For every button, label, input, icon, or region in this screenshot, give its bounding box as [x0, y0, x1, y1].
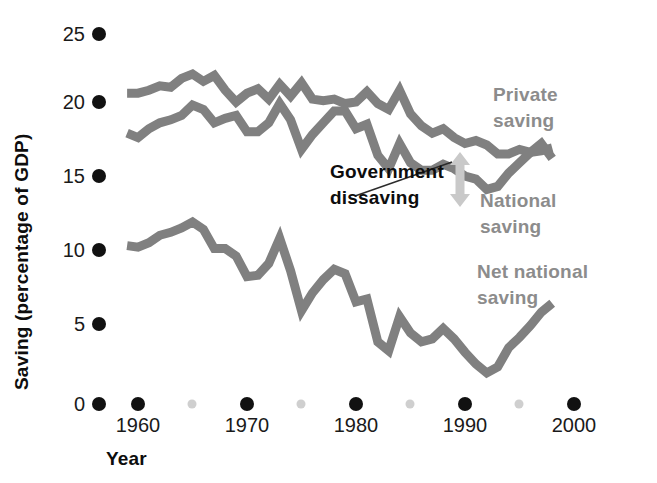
- label-government-dissaving-line1: Government: [330, 161, 444, 182]
- y-tick-label-15: 15: [63, 165, 85, 187]
- y-tick-label-5: 5: [74, 313, 85, 335]
- label-net-national-saving-line1: Net national: [477, 261, 588, 282]
- x-tick-dot-1985: [406, 400, 415, 409]
- y-tick-dot-20: [92, 95, 106, 109]
- y-axis-title: Saving (percentage of GDP): [11, 134, 32, 390]
- x-tick-dot-2000: [567, 397, 581, 411]
- x-axis-group: 1960 1970 1980 1990 2000: [116, 397, 597, 436]
- y-tick-dot-15: [92, 169, 106, 183]
- label-national-saving-line1: National: [480, 190, 557, 211]
- x-tick-dot-1970: [240, 397, 254, 411]
- x-tick-dot-1990: [458, 397, 472, 411]
- x-tick-label-1970: 1970: [225, 414, 270, 436]
- x-tick-label-2000: 2000: [552, 414, 597, 436]
- label-government-dissaving-line2: dissaving: [330, 187, 419, 208]
- y-tick-dot-10: [92, 243, 106, 257]
- y-tick-dot-5: [92, 317, 106, 331]
- y-tick-label-10: 10: [63, 239, 85, 261]
- label-private-saving-line1: Private: [493, 84, 558, 105]
- x-tick-dot-1960: [131, 397, 145, 411]
- y-tick-label-0: 0: [74, 393, 85, 415]
- label-private-saving-line2: saving: [493, 110, 554, 131]
- x-tick-dot-1980: [349, 397, 363, 411]
- y-tick-dot-0: [92, 397, 106, 411]
- chart-figure: 25 20 15 10 5 0 Saving (percentage of GD…: [0, 0, 657, 483]
- saving-line-chart: 25 20 15 10 5 0 Saving (percentage of GD…: [0, 0, 657, 483]
- x-tick-label-1990: 1990: [443, 414, 488, 436]
- y-axis-group: 25 20 15 10 5 0: [63, 23, 106, 415]
- x-tick-label-1980: 1980: [334, 414, 379, 436]
- x-tick-dot-1965: [188, 400, 197, 409]
- x-tick-label-1960: 1960: [116, 414, 161, 436]
- y-tick-label-20: 20: [63, 91, 85, 113]
- x-axis-title: Year: [106, 448, 147, 469]
- x-tick-dot-1975: [297, 400, 306, 409]
- y-tick-label-25: 25: [63, 23, 85, 45]
- y-tick-dot-25: [92, 27, 106, 41]
- x-tick-dot-1995: [515, 400, 524, 409]
- label-net-national-saving-line2: saving: [477, 287, 538, 308]
- label-national-saving-line2: saving: [480, 216, 541, 237]
